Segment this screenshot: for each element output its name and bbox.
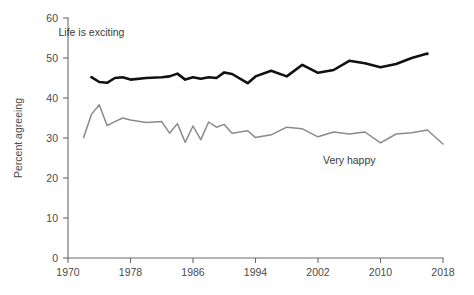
- x-tick-label: 2018: [431, 266, 455, 278]
- x-axis: 1970197819861994200220102018: [56, 258, 455, 278]
- y-tick-label: 0: [52, 252, 58, 264]
- x-tick-label: 1986: [181, 266, 205, 278]
- line-chart-figure: 0102030405060 19701978198619942002201020…: [0, 0, 474, 295]
- y-tick-label: 60: [46, 12, 58, 24]
- y-tick-label: 30: [46, 132, 58, 144]
- x-tick-label: 1994: [244, 266, 268, 278]
- y-tick-label: 10: [46, 212, 58, 224]
- x-tick-label: 2002: [306, 266, 330, 278]
- y-tick-label: 20: [46, 172, 58, 184]
- y-axis-title: Percent agreeing: [12, 98, 24, 178]
- axis-titles: Percent agreeing: [12, 98, 24, 178]
- chart-container: 0102030405060 19701978198619942002201020…: [0, 0, 474, 295]
- series-label-very-happy: Very happy: [323, 154, 376, 166]
- y-tick-label: 50: [46, 52, 58, 64]
- y-axis: 0102030405060: [46, 12, 68, 264]
- y-tick-label: 40: [46, 92, 58, 104]
- series-line-life-is-exciting: [91, 54, 427, 84]
- x-tick-label: 1978: [119, 266, 143, 278]
- series-annotations: Life is excitingVery happy: [58, 26, 376, 166]
- x-tick-label: 2010: [369, 266, 393, 278]
- x-tick-label: 1970: [56, 266, 80, 278]
- series-label-life-is-exciting: Life is exciting: [58, 26, 124, 38]
- series-line-very-happy: [84, 105, 443, 144]
- series-lines: [84, 54, 443, 144]
